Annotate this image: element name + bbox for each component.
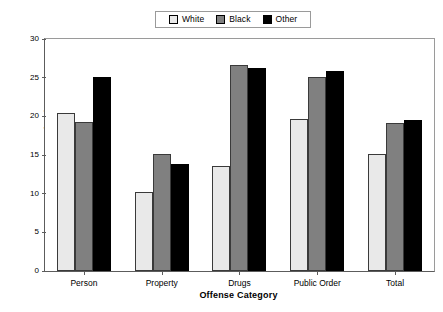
x-axis-tick-label: Drugs xyxy=(228,278,251,288)
x-axis-title: Offense Category xyxy=(44,290,433,300)
bar-black xyxy=(75,122,93,271)
x-axis-tick-mark xyxy=(239,271,240,275)
plot-area: 051015202530 PersonPropertyDrugsPublic O… xyxy=(44,38,435,272)
y-axis-tick: 30 xyxy=(30,35,45,43)
legend-label: White xyxy=(182,15,204,24)
bar-other xyxy=(404,120,422,271)
legend-swatch-icon xyxy=(263,15,272,24)
legend-entry: Other xyxy=(263,15,298,24)
x-axis-tick-mark xyxy=(395,271,396,275)
bar-other xyxy=(248,68,266,271)
bar-other xyxy=(93,77,111,271)
bar-other xyxy=(326,71,344,271)
y-axis-tick: 15 xyxy=(30,151,45,159)
x-axis-tick-label: Property xyxy=(146,278,178,288)
y-axis-tick: 25 xyxy=(30,74,45,82)
y-axis-tick-label: 15 xyxy=(30,151,42,159)
x-axis-tick-label: Total xyxy=(386,278,404,288)
bar-black xyxy=(230,65,248,271)
legend-label: Black xyxy=(229,15,250,24)
bar-group: Drugs xyxy=(201,39,279,271)
legend-swatch-icon xyxy=(216,15,225,24)
y-axis-tick: 10 xyxy=(30,190,45,198)
bar-white xyxy=(368,154,386,271)
x-axis-tick-label: Person xyxy=(70,278,97,288)
bar-group: Person xyxy=(45,39,123,271)
bar-black xyxy=(153,154,171,271)
legend-entry: Black xyxy=(216,15,250,24)
bar-groups: PersonPropertyDrugsPublic OrderTotal xyxy=(45,39,434,271)
legend-entry: White xyxy=(169,15,204,24)
y-axis-tick: 5 xyxy=(35,228,45,236)
bar-group: Public Order xyxy=(278,39,356,271)
bar-white xyxy=(212,166,230,271)
bar-white xyxy=(290,119,308,271)
y-axis-tick-label: 10 xyxy=(30,190,42,198)
y-axis-tick: 20 xyxy=(30,112,45,120)
bar-black xyxy=(386,123,404,271)
x-axis-tick-mark xyxy=(84,271,85,275)
bar-black xyxy=(308,77,326,271)
x-axis-tick-mark xyxy=(162,271,163,275)
y-axis-tick-label: 25 xyxy=(30,74,42,82)
y-axis-tick-label: 0 xyxy=(35,267,42,275)
bar-group: Property xyxy=(123,39,201,271)
legend-label: Other xyxy=(276,15,298,24)
y-axis-tick-label: 20 xyxy=(30,112,42,120)
y-axis-tick-label: 5 xyxy=(35,228,42,236)
x-axis-tick-label: Public Order xyxy=(294,278,341,288)
chart-legend: WhiteBlackOther xyxy=(155,11,311,28)
y-axis-tick: 0 xyxy=(35,267,45,275)
bar-white xyxy=(57,113,75,271)
y-axis-tick-label: 30 xyxy=(30,35,42,43)
bar-other xyxy=(171,164,189,271)
bar-chart: WhiteBlackOther Percentage Detained 0510… xyxy=(0,0,443,312)
bar-white xyxy=(135,192,153,271)
bar-group: Total xyxy=(356,39,434,271)
x-axis-tick-mark xyxy=(317,271,318,275)
legend-swatch-icon xyxy=(169,15,178,24)
